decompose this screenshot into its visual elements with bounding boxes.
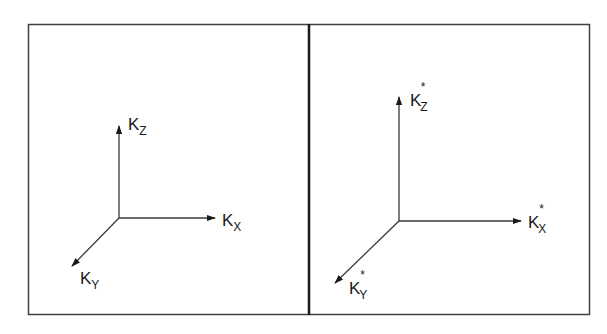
diagram-canvas: KZ KX KY KZ* KX* KY*	[0, 0, 607, 334]
y-axis-arrow	[72, 218, 119, 266]
x-axis-label: KX	[222, 211, 241, 234]
left-panel: KZ KX KY	[72, 115, 241, 292]
y-star-axis-arrow	[335, 221, 399, 283]
y-star-axis-label: KY*	[349, 268, 367, 302]
z-axis-label: KZ	[128, 115, 147, 138]
right-panel: KZ* KX* KY*	[335, 80, 546, 302]
x-star-axis-label: KX*	[528, 202, 546, 236]
y-axis-label: KY	[80, 269, 99, 292]
z-star-axis-label: KZ*	[410, 80, 428, 114]
